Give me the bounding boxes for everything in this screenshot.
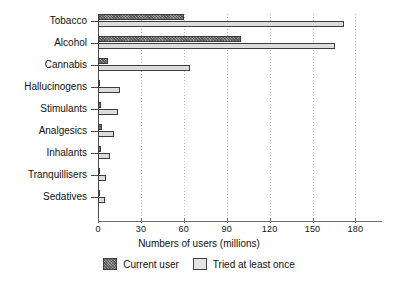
gridline xyxy=(355,14,356,221)
bar-tried-at-least-once xyxy=(98,153,110,159)
y-tick xyxy=(91,87,98,88)
bar-tried-at-least-once xyxy=(98,197,105,203)
x-tick xyxy=(270,218,271,223)
category-label: Tranquillisers xyxy=(0,169,87,181)
bar-tried-at-least-once xyxy=(98,131,114,137)
legend-label: Tried at least once xyxy=(213,259,295,270)
legend-label: Current user xyxy=(123,259,179,270)
x-axis-title: Numbers of users (millions) xyxy=(0,238,398,249)
y-tick xyxy=(91,197,98,198)
bar-current-user xyxy=(98,36,241,42)
bar-tried-at-least-once xyxy=(98,43,335,49)
bar-current-user xyxy=(98,190,100,196)
bar-current-user xyxy=(98,146,101,152)
y-tick xyxy=(91,43,98,44)
bar-tried-at-least-once xyxy=(98,65,190,71)
y-tick xyxy=(91,153,98,154)
category-label: Cannabis xyxy=(0,59,87,71)
y-tick xyxy=(91,131,98,132)
bar-current-user xyxy=(98,80,100,86)
bar-current-user xyxy=(98,58,108,64)
y-tick xyxy=(91,65,98,66)
x-tick-label: 150 xyxy=(296,224,330,235)
x-tick-label: 90 xyxy=(210,224,244,235)
category-label: Hallucinogens xyxy=(0,81,87,93)
category-label: Alcohol xyxy=(0,37,87,49)
x-tick xyxy=(184,218,185,223)
x-tick-label: 30 xyxy=(124,224,158,235)
legend-swatch-tried xyxy=(193,258,207,270)
bar-current-user xyxy=(98,102,101,108)
bar-tried-at-least-once xyxy=(98,87,120,93)
bar-current-user xyxy=(98,168,100,174)
x-tick-label: 0 xyxy=(81,224,115,235)
x-tick-label: 180 xyxy=(338,224,372,235)
x-tick xyxy=(313,218,314,223)
bar-tried-at-least-once xyxy=(98,109,118,115)
bar-current-user xyxy=(98,14,184,20)
chart-legend: Current userTried at least once xyxy=(0,258,398,270)
y-tick xyxy=(91,175,98,176)
y-tick xyxy=(91,109,98,110)
legend-entry: Tried at least once xyxy=(193,258,295,270)
legend-entry: Current user xyxy=(103,258,179,270)
bar-tried-at-least-once xyxy=(98,21,344,27)
legend-swatch-current xyxy=(103,258,117,270)
category-label: Tobacco xyxy=(0,15,87,27)
x-tick xyxy=(227,218,228,223)
category-label: Inhalants xyxy=(0,147,87,159)
category-label: Analgesics xyxy=(0,125,87,137)
y-tick xyxy=(91,21,98,22)
bar-chart: 0306090120150180 TobaccoAlcoholCannabisH… xyxy=(0,0,398,288)
category-label: Stimulants xyxy=(0,103,87,115)
x-tick xyxy=(355,218,356,223)
x-tick-label: 60 xyxy=(167,224,201,235)
bar-tried-at-least-once xyxy=(98,175,106,181)
category-label: Sedatives xyxy=(0,191,87,203)
x-tick xyxy=(98,218,99,223)
bar-current-user xyxy=(98,124,102,130)
x-tick-label: 120 xyxy=(253,224,287,235)
x-tick xyxy=(141,218,142,223)
